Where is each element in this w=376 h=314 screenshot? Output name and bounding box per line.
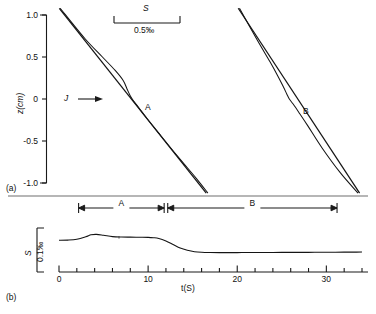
panel-a-y-tick-label: 1.0 bbox=[0, 11, 38, 20]
x-axis-label-unit: (S) bbox=[183, 283, 194, 293]
panel-b-x-tick-label: 10 bbox=[136, 275, 160, 284]
panel-a-y-tick-label: -0.5 bbox=[0, 137, 38, 146]
interval-arrow-head-icon bbox=[168, 205, 174, 211]
curve-a-sigmoid bbox=[60, 8, 208, 193]
panel-b-x-axis-label: t(S) bbox=[181, 284, 195, 293]
flux-arrow-head-icon bbox=[95, 96, 103, 102]
curve-label-b: B bbox=[303, 107, 309, 116]
panel-b-y-axis-label: S bbox=[24, 250, 33, 256]
interval-marker-label: A bbox=[111, 199, 131, 208]
panel-b-x-tick-label: 0 bbox=[47, 275, 71, 284]
panel-a-tag: (a) bbox=[6, 183, 16, 193]
curve-salinity-timeseries bbox=[59, 234, 362, 252]
flux-arrow-label: J bbox=[64, 94, 68, 103]
panel-b-x-ticks bbox=[59, 266, 362, 273]
panel-b-x-tick-label: 20 bbox=[225, 275, 249, 284]
panel-a-y-ticks bbox=[42, 15, 47, 183]
panel-b bbox=[37, 203, 368, 272]
interval-arrow-head-icon bbox=[79, 205, 85, 211]
panel-b-tag: (b) bbox=[6, 292, 16, 302]
panel-b-x-tick-label: 30 bbox=[314, 275, 338, 284]
interval-arrow-head-icon bbox=[158, 205, 164, 211]
scale-bar bbox=[114, 16, 180, 23]
curve-label-a: A bbox=[145, 103, 151, 112]
figure-root bbox=[0, 0, 376, 314]
panel-a-y-tick-label: 0.5 bbox=[0, 53, 38, 62]
scale-bar-symbol: S bbox=[143, 4, 149, 13]
scale-bar-value: 0.5‰ bbox=[134, 26, 154, 35]
panel-a-y-tick-label: 0 bbox=[0, 95, 38, 104]
interval-marker-label: B bbox=[242, 199, 262, 208]
curve-b-straight bbox=[238, 8, 359, 193]
interval-arrow-head-icon bbox=[331, 205, 337, 211]
panel-a bbox=[40, 8, 360, 193]
panel-b-scale-value: 0.1‰ bbox=[36, 242, 45, 262]
